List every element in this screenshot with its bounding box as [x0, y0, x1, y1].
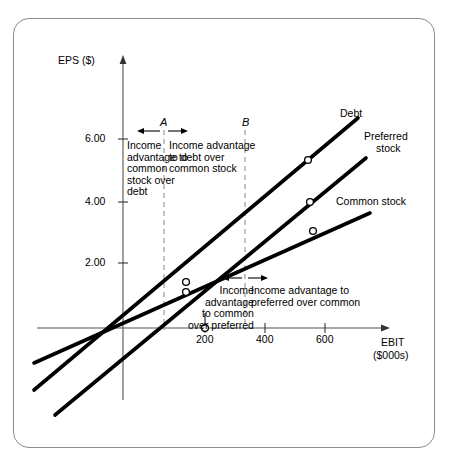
y-tick-label-400: 4.00 [85, 196, 105, 208]
ebit-eps-chart [0, 0, 453, 467]
y-tick-label-600: 6.00 [85, 133, 105, 145]
annotation-common-over-preferred: Income advantage to common over preferre… [188, 285, 254, 331]
x-axis-label: EBIT [381, 337, 404, 349]
arrow-b-right-head [261, 275, 268, 281]
arrow-a-right-head [181, 128, 188, 134]
x-axis-label-units: ($000s) [373, 350, 409, 362]
x-axis-arrow [381, 325, 390, 332]
annotation-debt-over-common: Income advantage to debt over common sto… [169, 140, 255, 175]
marker-label-b: B [242, 117, 249, 129]
marker-debt-600 [305, 157, 312, 164]
x-tick-label-600: 600 [316, 334, 334, 346]
marker-label-a: A [160, 117, 167, 129]
x-tick-label-400: 400 [256, 334, 274, 346]
series-label-debt: Debt [340, 108, 362, 120]
series-label-preferred-2: stock [376, 143, 401, 155]
y-axis-label: EPS ($) [58, 55, 95, 67]
x-tick-label-200: 200 [196, 334, 214, 346]
series-label-common: Common stock [336, 196, 406, 208]
marker-common-600 [310, 228, 317, 235]
annotation-preferred-over-common: Income advantage to preferred over commo… [251, 285, 360, 308]
arrow-a-left-head [137, 128, 144, 134]
y-tick-label-200: 2.00 [85, 257, 105, 269]
marker-preferred-600 [307, 199, 314, 206]
series-label-preferred: Preferred [364, 131, 408, 143]
y-axis-arrow [120, 55, 127, 64]
